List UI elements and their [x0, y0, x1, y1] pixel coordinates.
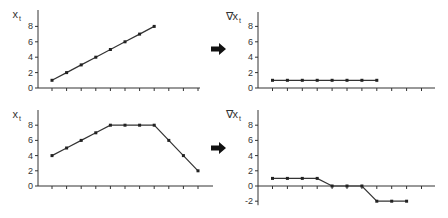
y-tick-label: 4 [248, 151, 253, 161]
y-axis-label-subscript: t [239, 17, 241, 24]
data-point [94, 131, 97, 134]
data-point [316, 177, 319, 180]
series-line [52, 125, 198, 171]
data-point [124, 40, 127, 43]
y-axis-label-subscript: t [19, 15, 21, 22]
data-point [301, 177, 304, 180]
y-tick-label: 6 [28, 135, 33, 145]
data-point [286, 177, 289, 180]
y-tick-label: 6 [28, 37, 33, 47]
differencing-diagram: 02468xt02468∇xt02468xt-202468∇xt [0, 0, 448, 218]
y-axis-label: x [13, 108, 19, 120]
y-tick-label: 6 [248, 135, 253, 145]
y-axis-label: ∇x [225, 10, 239, 22]
y-tick-label: 0 [248, 83, 253, 93]
data-point [153, 124, 156, 127]
data-point [405, 200, 408, 203]
data-point [153, 25, 156, 28]
data-point [182, 154, 185, 157]
data-point [109, 124, 112, 127]
data-point [124, 124, 127, 127]
y-tick-label: 0 [28, 181, 33, 191]
y-tick-label: 4 [28, 151, 33, 161]
data-point [109, 48, 112, 51]
data-point [301, 79, 304, 82]
data-point [271, 177, 274, 180]
y-axis-label-subscript: t [239, 115, 241, 122]
y-tick-label: 0 [28, 83, 33, 93]
data-point [65, 71, 68, 74]
data-point [346, 79, 349, 82]
data-point [271, 79, 274, 82]
data-point [51, 79, 54, 82]
data-point [375, 79, 378, 82]
y-tick-label: 4 [248, 52, 253, 62]
y-tick-label: 4 [28, 52, 33, 62]
data-point [197, 169, 200, 172]
y-tick-label: 2 [28, 68, 33, 78]
y-tick-label: -2 [245, 196, 253, 206]
y-tick-label: 8 [28, 120, 33, 130]
right-arrow-icon [211, 43, 226, 55]
right-arrow-icon [211, 142, 226, 154]
data-point [80, 63, 83, 66]
data-point [286, 79, 289, 82]
panel-bottom-left: 02468xt [13, 108, 214, 191]
y-axis-label: ∇x [225, 108, 239, 120]
data-point [331, 79, 334, 82]
y-tick-label: 8 [248, 21, 253, 31]
data-point [138, 124, 141, 127]
series-line [273, 178, 407, 201]
y-tick-label: 8 [28, 21, 33, 31]
y-tick-label: 0 [248, 181, 253, 191]
panel-top-left: 02468xt [13, 8, 201, 93]
data-point [346, 185, 349, 188]
y-axis-label-subscript: t [19, 115, 21, 122]
data-point [390, 200, 393, 203]
panel-bottom-right: -202468∇xt [225, 108, 436, 206]
data-point [138, 33, 141, 36]
data-point [65, 147, 68, 150]
data-point [375, 200, 378, 203]
panel-top-right: 02468∇xt [225, 10, 436, 93]
data-point [316, 79, 319, 82]
y-tick-label: 2 [248, 68, 253, 78]
y-tick-label: 2 [28, 166, 33, 176]
data-point [331, 185, 334, 188]
data-point [51, 154, 54, 157]
y-tick-label: 8 [248, 120, 253, 130]
y-tick-label: 2 [248, 166, 253, 176]
data-point [360, 185, 363, 188]
y-tick-label: 6 [248, 37, 253, 47]
data-point [360, 79, 363, 82]
data-point [80, 139, 83, 142]
data-point [167, 139, 170, 142]
data-point [94, 56, 97, 59]
y-axis-label: x [13, 8, 19, 20]
